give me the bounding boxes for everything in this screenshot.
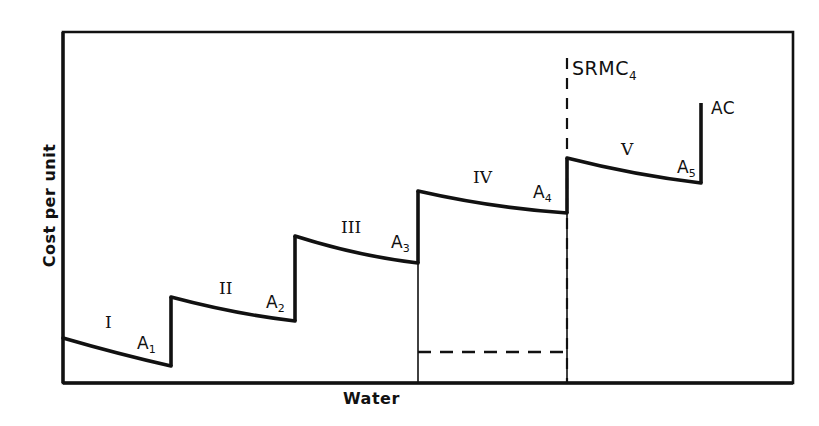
segment-label-2: II: [219, 278, 232, 298]
cost-curve-figure: Cost per unit Water I II III IV V A1 A2 …: [0, 0, 819, 426]
y-axis-title: Cost per unit: [40, 121, 59, 291]
endpoint-label-2: A2: [266, 292, 285, 315]
endpoint-label-5: A5: [677, 157, 696, 180]
endpoint-label-4-sub: 4: [545, 192, 552, 205]
chart-canvas: [0, 0, 819, 426]
endpoint-label-1-base: A: [137, 333, 149, 353]
ac-curve-label: AC: [711, 98, 735, 118]
endpoint-label-3: A3: [391, 232, 410, 255]
endpoint-label-1: A1: [137, 333, 156, 356]
endpoint-label-2-sub: 2: [278, 302, 285, 315]
segment-label-1: I: [105, 312, 112, 332]
srmc-label-base: SRMC: [572, 57, 629, 79]
endpoint-label-3-sub: 3: [403, 242, 410, 255]
x-axis-title: Water: [343, 389, 400, 408]
segment-label-3: III: [341, 217, 361, 237]
endpoint-label-3-base: A: [391, 232, 403, 252]
endpoint-label-5-sub: 5: [689, 167, 696, 180]
segment-label-4: IV: [473, 167, 492, 187]
endpoint-label-1-sub: 1: [149, 343, 156, 356]
segment-label-5: V: [621, 139, 633, 159]
endpoint-label-4-base: A: [533, 182, 545, 202]
endpoint-label-5-base: A: [677, 157, 689, 177]
srmc-label-sub: 4: [629, 69, 637, 83]
endpoint-label-4: A4: [533, 182, 552, 205]
endpoint-label-2-base: A: [266, 292, 278, 312]
srmc-label: SRMC4: [572, 57, 637, 83]
